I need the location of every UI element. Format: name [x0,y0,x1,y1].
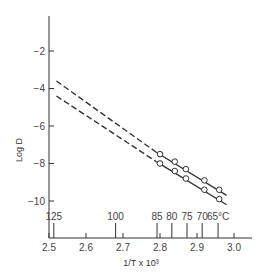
data-point [202,187,208,193]
x-tick-label: 2.5 [42,242,56,253]
temperature-label: 65°C [207,211,229,222]
data-point [216,187,222,193]
x-tick-label: 3.0 [227,242,241,253]
x-tick-label: 2.6 [79,242,93,253]
x-tick-label: 2.8 [153,242,167,253]
y-tick-label: −8 [34,158,46,169]
y-tick-label: −2 [34,46,46,57]
temperature-label: 85 [151,211,163,222]
y-tick-label: −10 [28,196,45,207]
dashed-extrapolation-line [56,81,156,152]
x-tick-label: 2.7 [116,242,130,253]
data-point [157,151,163,157]
data-point [216,196,222,202]
y-tick-label: −4 [34,83,46,94]
data-point [172,168,178,174]
temperature-label: 75 [181,211,193,222]
data-point [157,161,163,167]
data-point [183,166,189,172]
x-axis-title: 1/T x 10³ [123,258,158,268]
data-point [202,178,208,184]
y-axis-title: Log D [14,137,24,162]
data-point [183,176,189,182]
y-tick-label: −6 [34,121,46,132]
arrhenius-plot: −2−4−6−8−102.52.62.72.82.93.012510085807… [0,0,276,277]
x-tick-label: 2.9 [190,242,204,253]
data-point [172,159,178,165]
temperature-label: 100 [107,211,124,222]
temperature-label: 80 [166,211,178,222]
temperature-label: 125 [45,211,62,222]
dashed-extrapolation-line [56,96,156,162]
